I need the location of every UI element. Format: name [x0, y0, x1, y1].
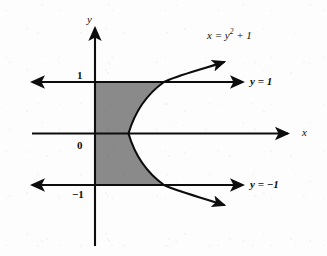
tick-label-y-one: 1 [77, 70, 83, 81]
graph-canvas [0, 0, 327, 256]
label-line-y-equals-1: y = 1 [250, 76, 272, 87]
curve-equation-label: x = y2 + 1 [207, 30, 252, 41]
x-axis-label: x [302, 127, 307, 138]
math-figure: y x 1 0 −1 x = y2 + 1 y = 1 y = −1 [0, 0, 327, 256]
y-axis-label: y [87, 14, 92, 25]
tick-label-y-minus-one: −1 [72, 189, 84, 200]
curve-equation-rhs: + 1 [233, 29, 251, 41]
origin-label: 0 [77, 140, 83, 151]
curve-equation-lhs: x = y [207, 29, 230, 41]
label-line-y-equals-minus-1: y = −1 [250, 179, 279, 190]
